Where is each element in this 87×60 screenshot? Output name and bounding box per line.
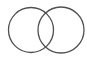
venn-diagram [0, 0, 87, 60]
right-circle [38, 7, 84, 53]
left-circle [9, 8, 54, 53]
